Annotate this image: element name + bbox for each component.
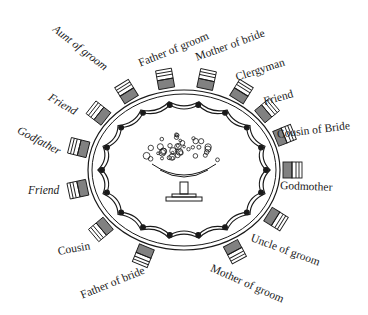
- chair-icon: [230, 79, 254, 104]
- chair-icon: [132, 244, 154, 268]
- chair-icon: [283, 162, 302, 178]
- chair-icon: [115, 79, 139, 104]
- flower-urn-icon: [143, 133, 219, 201]
- chair-icon: [197, 69, 217, 91]
- chair-icon: [264, 207, 289, 231]
- chair-icon: [67, 179, 89, 199]
- chair-icon: [156, 68, 175, 89]
- chair-icon: [223, 239, 246, 263]
- chair-icon: [68, 138, 90, 158]
- seat-label: Friend: [28, 185, 59, 197]
- table-rim: [88, 90, 280, 250]
- seat-label: Godmother: [280, 180, 333, 193]
- seating-diagram: Aunt of groomFather of groomMother of br…: [0, 0, 368, 315]
